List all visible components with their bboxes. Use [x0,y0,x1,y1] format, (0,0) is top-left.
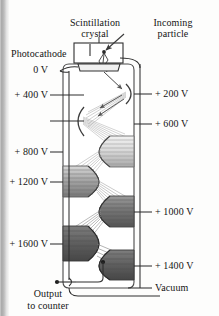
label-scintillation-crystal-line1: Scintillation [52,17,138,29]
voltage-label-right-0: + 200 V [155,88,188,100]
label-output-line1: Output [12,288,84,300]
voltage-label-left-0: 0 V [0,64,48,76]
voltage-label-left-1: + 400 V [0,89,48,101]
label-photocathode: Photocathode [11,48,67,60]
label-output-line2: to counter [12,300,84,312]
voltage-label-right-1: + 600 V [155,118,188,130]
voltage-label-right-2: + 1000 V [155,206,193,218]
voltage-label-left-4: + 1600 V [0,238,48,250]
label-incoming-particle-line1: Incoming [134,17,212,29]
photomultiplier-figure: Scintillation crystal Incoming particle … [0,0,219,316]
label-incoming-particle-line2: particle [134,28,212,40]
voltage-label-left-2: + 800 V [0,146,48,158]
voltage-label-left-3: + 1200 V [0,176,48,188]
label-scintillation-crystal-line2: crystal [52,28,138,40]
label-vacuum: Vacuum [155,282,188,294]
voltage-label-right-3: + 1400 V [155,260,193,272]
